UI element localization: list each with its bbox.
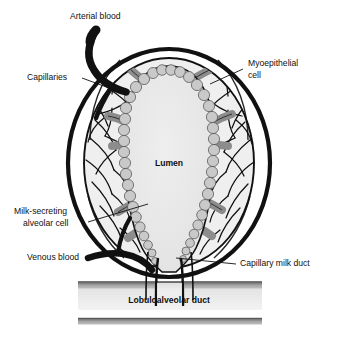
mammary-alveolus-diagram: Arterial blood Capillaries Myoepithelial… [0,0,339,339]
label-venous-blood: Venous blood [27,252,79,262]
label-arterial-blood: Arterial blood [70,11,121,21]
label-milk-secreting-line2: alveolar cell [23,218,68,228]
duct-band-lower [78,318,262,325]
label-myoepithelial-cell-line1: Myoepithelial [248,58,298,68]
label-lumen: Lumen [155,158,183,168]
label-lobuloalveolar-duct: Lobuloalveolar duct [128,295,210,305]
label-myoepithelial-cell-line2: cell [248,70,261,80]
label-milk-secreting-line1: Milk-secreting [14,206,67,216]
label-capillary-milk-duct: Capillary milk duct [240,258,310,268]
label-capillaries: Capillaries [27,72,67,82]
